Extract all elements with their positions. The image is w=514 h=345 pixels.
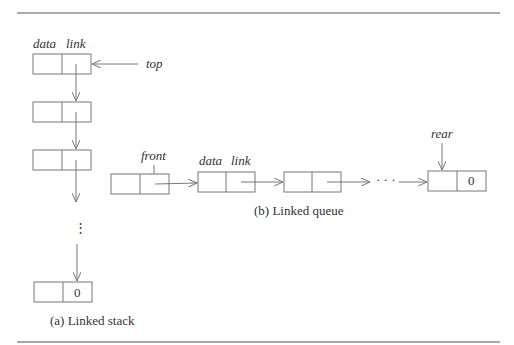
rear-label: rear bbox=[431, 126, 454, 141]
stack-node-2 bbox=[33, 102, 91, 122]
stack-last-node bbox=[34, 282, 92, 302]
queue-last-node bbox=[428, 171, 486, 191]
queue-data-header: data bbox=[199, 153, 223, 168]
stack-node-3 bbox=[33, 150, 91, 170]
stack-link-header: link bbox=[66, 36, 86, 51]
stack-data-header: data bbox=[33, 36, 57, 51]
stack-caption: (a) Linked stack bbox=[50, 313, 135, 328]
queue-ellipsis: · · · bbox=[376, 172, 396, 187]
queue-null-value: 0 bbox=[468, 173, 475, 188]
top-label: top bbox=[146, 56, 163, 71]
front-label: front bbox=[141, 148, 166, 163]
linked-structures-diagram: data link top ⋮ 0 (a) Linked stack front… bbox=[0, 0, 514, 345]
stack-ellipsis: ⋮ bbox=[74, 220, 87, 235]
stack-node-1 bbox=[33, 54, 91, 74]
stack-null-value: 0 bbox=[74, 285, 81, 300]
queue-caption: (b) Linked queue bbox=[254, 203, 344, 218]
queue-link-header: link bbox=[231, 153, 251, 168]
